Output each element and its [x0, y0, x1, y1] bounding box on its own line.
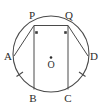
center-label-o: O: [47, 59, 54, 70]
segment-ap: [14, 26, 34, 57]
point-label-b: B: [29, 92, 36, 104]
segment-dq: [68, 26, 88, 57]
point-label-q: Q: [65, 9, 73, 21]
main-circle: [13, 16, 89, 92]
point-label-d: D: [90, 50, 98, 62]
point-label-p: P: [29, 9, 35, 21]
circle-geometry-diagram: A P Q D B C O: [0, 0, 102, 105]
point-label-c: C: [64, 92, 71, 104]
right-angle-mark-p: [35, 31, 38, 34]
right-angle-mark-q: [64, 31, 67, 34]
point-label-a: A: [4, 50, 12, 62]
geometry-figure: A P Q D B C O: [0, 0, 102, 105]
